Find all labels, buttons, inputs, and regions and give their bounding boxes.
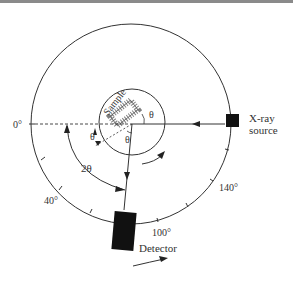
two-theta-arc (67, 126, 125, 190)
scale-label-100: 100° (152, 227, 171, 238)
scale-label-40: 40° (44, 195, 58, 206)
scale-label-140: 140° (219, 182, 238, 193)
theta-label-diffracted: θ (125, 134, 130, 145)
theta-label-left: θ (90, 131, 95, 142)
source-label-2: source (249, 124, 278, 136)
source-label-1: X-ray (249, 112, 275, 124)
detector-rotation-arrow (133, 259, 164, 266)
xray-source (226, 114, 239, 127)
detector-label: Detector (139, 242, 177, 254)
two-theta-label: 2θ (81, 162, 92, 174)
theta-label-incident: θ (149, 109, 154, 120)
scale-label-0: 0° (13, 119, 22, 130)
detector (111, 211, 136, 251)
diffractometer-diagram: Sample X-ray source Detector 2θ θ θ θ 0°… (0, 0, 293, 281)
